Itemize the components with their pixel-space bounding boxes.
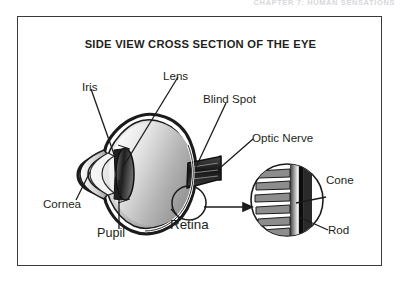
label-iris: Iris: [82, 80, 97, 93]
label-lens: Lens: [163, 69, 188, 82]
leader-optic-nerve: [221, 139, 253, 167]
label-cone: Cone: [326, 173, 354, 186]
label-cornea: Cornea: [43, 197, 81, 210]
figure-frame: SIDE VIEW CROSS SECTION OF THE EYE: [17, 16, 382, 266]
cutoff-running-header: CHAPTER 7: HUMAN SENSATIONS: [245, 0, 395, 7]
pigment-band-dark-line: [299, 162, 303, 240]
label-retina: Retina: [170, 217, 209, 232]
eyeball-group: [78, 114, 221, 233]
magnification-arrow: [204, 203, 252, 211]
photoreceptor-magnifier-group: [251, 162, 323, 240]
page-canvas: CHAPTER 7: HUMAN SENSATIONS SIDE VIEW CR…: [0, 0, 401, 281]
leader-iris: [91, 89, 115, 157]
label-optic-nerve: Optic Nerve: [252, 131, 313, 144]
label-blind-spot: Blind Spot: [203, 92, 256, 105]
label-rod: Rod: [328, 223, 349, 236]
label-pupil: Pupil: [97, 226, 125, 240]
